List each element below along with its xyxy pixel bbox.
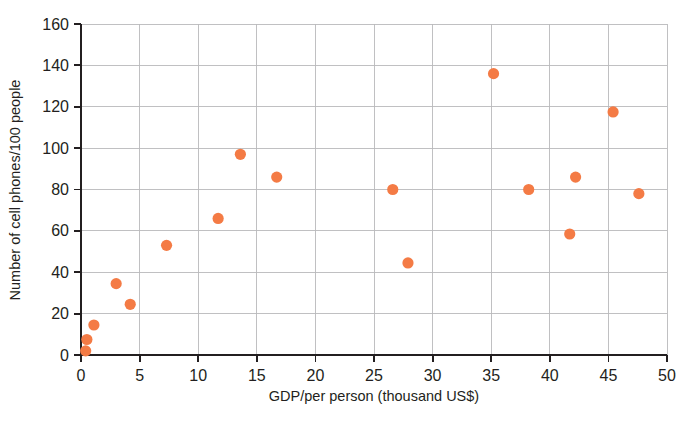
x-axis-tick-label: 5 (135, 367, 144, 384)
x-axis-tick-label: 40 (541, 367, 559, 384)
data-point (213, 213, 224, 224)
x-axis-tick-label: 50 (658, 367, 676, 384)
x-axis-tick-label: 0 (77, 367, 86, 384)
data-point (111, 278, 122, 289)
y-axis-tick-label: 140 (42, 57, 69, 74)
data-point (88, 319, 99, 330)
data-point (564, 228, 575, 239)
data-point (402, 257, 413, 268)
data-point (161, 240, 172, 251)
y-axis-tick-label: 80 (51, 181, 69, 198)
x-axis-tick-label: 15 (248, 367, 266, 384)
x-axis-title: GDP/per person (thousand US$) (269, 388, 479, 404)
y-axis-tick-label: 20 (51, 305, 69, 322)
data-point (271, 171, 282, 182)
y-axis-tick-label: 0 (60, 347, 69, 364)
chart-background (0, 0, 687, 425)
x-axis-tick-label: 30 (424, 367, 442, 384)
data-point (523, 184, 534, 195)
data-point (80, 345, 91, 356)
y-axis-tick-label: 160 (42, 16, 69, 33)
data-point (607, 106, 618, 117)
data-point (235, 149, 246, 160)
data-point (488, 68, 499, 79)
data-point (570, 171, 581, 182)
y-axis-title: Number of cell phones/100 people (7, 80, 23, 301)
x-axis-tick-label: 35 (482, 367, 500, 384)
chart-canvas: 020406080100120140160 051015202530354045… (0, 0, 687, 425)
x-axis-tick-label: 10 (189, 367, 207, 384)
y-axis-tick-label: 40 (51, 264, 69, 281)
y-axis-tick-label: 60 (51, 222, 69, 239)
x-axis-tick-label: 20 (307, 367, 325, 384)
data-point (387, 184, 398, 195)
x-axis-tick-label: 25 (365, 367, 383, 384)
scatter-chart: 020406080100120140160 051015202530354045… (0, 0, 687, 425)
y-axis-tick-label: 100 (42, 140, 69, 157)
data-point (81, 334, 92, 345)
data-point (125, 299, 136, 310)
y-axis-tick-label: 120 (42, 98, 69, 115)
x-axis-tick-label: 45 (600, 367, 618, 384)
data-point (633, 188, 644, 199)
